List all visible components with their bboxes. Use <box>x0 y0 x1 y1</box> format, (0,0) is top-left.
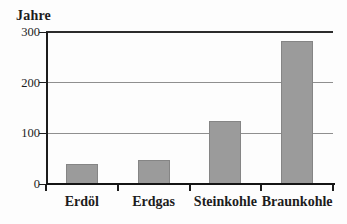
y-axis-line <box>46 32 48 185</box>
plot-area <box>46 32 333 184</box>
y-tick-label-0: 0 <box>6 177 40 191</box>
bar-chart: Jahre 0100200300 ErdölErdgasSteinkohleBr… <box>0 0 347 224</box>
gridline-300 <box>46 31 333 33</box>
chart-title: Jahre <box>16 8 51 24</box>
x-tick-2 <box>189 185 191 191</box>
x-tick-1 <box>117 185 119 191</box>
x-category-label-erdöl: Erdöl <box>65 194 99 210</box>
y-tick-label-200: 200 <box>6 76 40 90</box>
bar-braunkohle <box>281 41 313 184</box>
bar-erdgas <box>138 160 170 184</box>
x-axis-line <box>46 183 335 185</box>
bar-erdöl <box>66 164 98 184</box>
x-axis-labels: ErdölErdgasSteinkohleBraunkohle <box>46 194 333 216</box>
x-tick-4 <box>332 185 334 191</box>
y-tick-200 <box>39 82 46 83</box>
y-tick-label-300: 300 <box>6 25 40 39</box>
y-axis-labels: 0100200300 <box>6 32 40 184</box>
x-category-label-braunkohle: Braunkohle <box>262 194 333 210</box>
x-tick-3 <box>260 185 262 191</box>
bar-steinkohle <box>209 121 241 184</box>
x-category-label-erdgas: Erdgas <box>132 194 175 210</box>
x-category-label-steinkohle: Steinkohle <box>194 194 257 210</box>
y-tick-100 <box>39 133 46 134</box>
x-tick-0 <box>45 185 47 191</box>
y-tick-300 <box>39 32 46 33</box>
y-tick-label-100: 100 <box>6 126 40 140</box>
